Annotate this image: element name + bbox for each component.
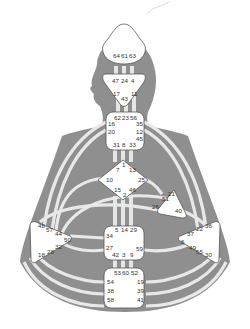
svg-text:27: 27 bbox=[106, 244, 113, 251]
svg-text:64: 64 bbox=[113, 52, 120, 59]
svg-text:63: 63 bbox=[129, 52, 136, 59]
svg-text:32: 32 bbox=[55, 243, 62, 250]
svg-text:34: 34 bbox=[106, 232, 113, 239]
svg-text:57: 57 bbox=[46, 226, 53, 233]
svg-text:58: 58 bbox=[107, 296, 114, 303]
bodygraph: 64 61 63 47 24 4 17 11 43 62 23 56 16 35… bbox=[0, 0, 250, 329]
svg-text:22: 22 bbox=[196, 225, 203, 232]
svg-text:26: 26 bbox=[152, 203, 159, 210]
svg-text:41: 41 bbox=[137, 296, 144, 303]
svg-text:12: 12 bbox=[136, 128, 143, 135]
svg-text:38: 38 bbox=[107, 287, 114, 294]
svg-text:8: 8 bbox=[122, 141, 126, 148]
svg-text:36: 36 bbox=[205, 222, 212, 229]
svg-text:54: 54 bbox=[107, 278, 114, 285]
svg-text:5: 5 bbox=[115, 226, 119, 233]
svg-text:61: 61 bbox=[121, 52, 128, 59]
svg-text:51: 51 bbox=[162, 195, 169, 202]
svg-text:43: 43 bbox=[121, 95, 128, 102]
svg-text:42: 42 bbox=[112, 251, 119, 258]
svg-text:33: 33 bbox=[129, 141, 136, 148]
svg-text:21: 21 bbox=[168, 190, 175, 197]
squiggle-mark bbox=[146, 1, 170, 14]
svg-text:48: 48 bbox=[38, 222, 45, 229]
svg-text:4: 4 bbox=[131, 77, 135, 84]
svg-text:35: 35 bbox=[136, 120, 143, 127]
svg-text:13: 13 bbox=[129, 166, 136, 173]
svg-text:25: 25 bbox=[138, 176, 145, 183]
svg-text:60: 60 bbox=[122, 269, 129, 276]
svg-text:3: 3 bbox=[122, 251, 126, 258]
svg-text:50: 50 bbox=[64, 236, 71, 243]
svg-text:59: 59 bbox=[136, 245, 143, 252]
svg-text:29: 29 bbox=[130, 226, 137, 233]
svg-text:14: 14 bbox=[121, 226, 128, 233]
svg-text:18: 18 bbox=[38, 251, 45, 258]
svg-text:53: 53 bbox=[114, 269, 121, 276]
svg-text:52: 52 bbox=[131, 269, 138, 276]
svg-text:44: 44 bbox=[55, 230, 62, 237]
svg-text:1: 1 bbox=[122, 161, 126, 168]
svg-text:55: 55 bbox=[196, 248, 203, 255]
svg-text:7: 7 bbox=[116, 166, 120, 173]
svg-text:30: 30 bbox=[205, 251, 212, 258]
svg-text:23: 23 bbox=[122, 114, 129, 121]
svg-text:47: 47 bbox=[112, 77, 119, 84]
svg-text:2: 2 bbox=[123, 191, 127, 198]
svg-text:24: 24 bbox=[121, 77, 128, 84]
svg-text:10: 10 bbox=[106, 176, 113, 183]
svg-text:31: 31 bbox=[113, 141, 120, 148]
svg-text:39: 39 bbox=[137, 287, 144, 294]
svg-text:11: 11 bbox=[131, 90, 138, 97]
svg-text:37: 37 bbox=[187, 230, 194, 237]
svg-text:46: 46 bbox=[129, 186, 136, 193]
svg-text:15: 15 bbox=[114, 186, 121, 193]
svg-text:28: 28 bbox=[47, 248, 54, 255]
svg-text:17: 17 bbox=[113, 90, 120, 97]
svg-text:62: 62 bbox=[114, 114, 121, 121]
svg-text:19: 19 bbox=[137, 278, 144, 285]
svg-text:9: 9 bbox=[130, 251, 134, 258]
svg-text:16: 16 bbox=[108, 120, 115, 127]
svg-text:6: 6 bbox=[181, 238, 185, 245]
svg-text:40: 40 bbox=[175, 207, 182, 214]
svg-text:45: 45 bbox=[136, 135, 143, 142]
svg-text:20: 20 bbox=[108, 128, 115, 135]
